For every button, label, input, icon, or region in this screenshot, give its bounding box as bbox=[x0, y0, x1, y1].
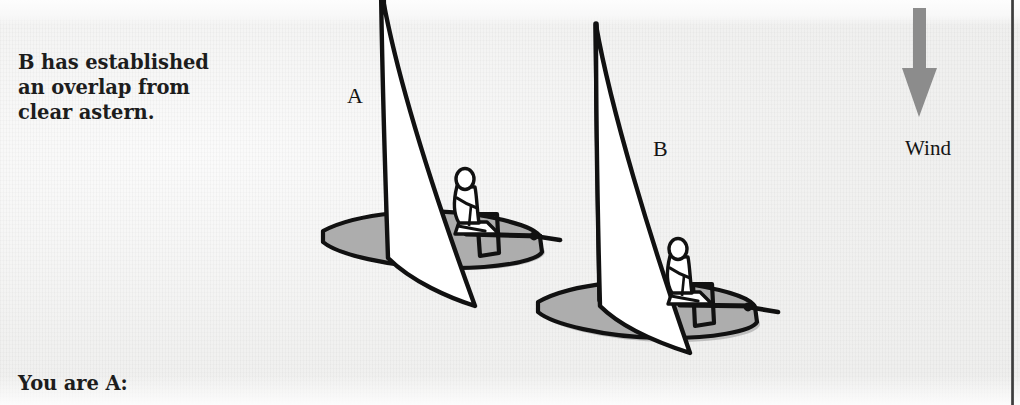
caption-top-line-1: B has established bbox=[18, 50, 268, 75]
page-right-rule bbox=[1011, 0, 1014, 405]
wind-arrow-shape bbox=[902, 8, 937, 117]
caption-bottom: You are A: bbox=[18, 371, 128, 396]
caption-top-line-2: an overlap from bbox=[18, 75, 268, 100]
caption-top: B has established an overlap from clear … bbox=[18, 50, 268, 125]
wind-label: Wind bbox=[878, 136, 978, 161]
boat-a-label: A bbox=[347, 83, 363, 109]
caption-top-line-3: clear astern. bbox=[18, 100, 268, 125]
diagram-page: B has established an overlap from clear … bbox=[0, 0, 1020, 405]
boat-b-label: B bbox=[653, 136, 668, 162]
